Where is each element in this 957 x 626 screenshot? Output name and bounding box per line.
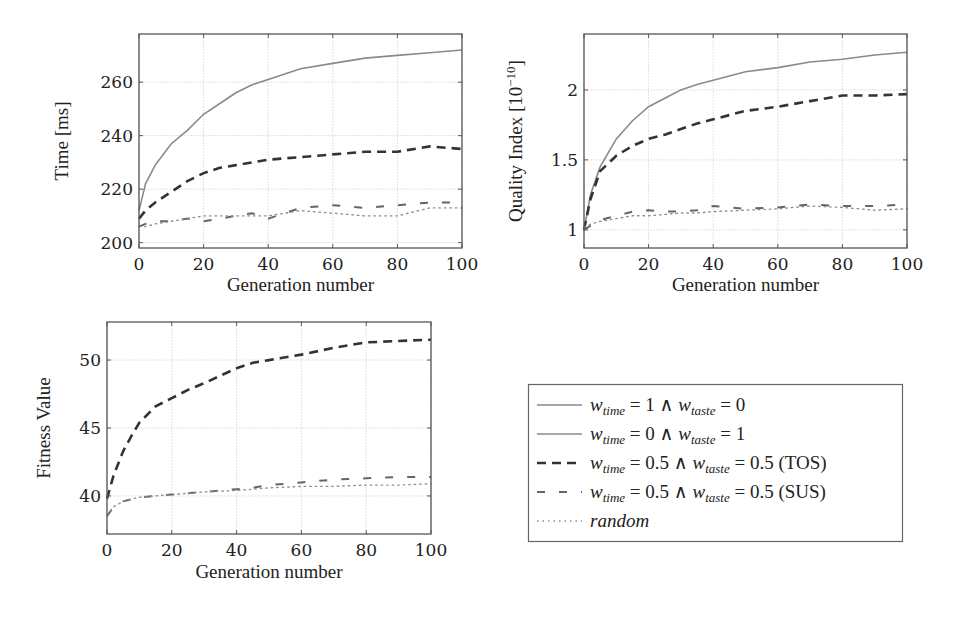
chart-time: 020406080100200220240260Generation numbe…: [51, 34, 478, 295]
series-line: [139, 50, 462, 211]
series-group: [584, 52, 907, 230]
x-tick-label: 100: [891, 254, 923, 274]
y-tick-label: 50: [79, 350, 101, 370]
x-tick-label: 60: [767, 254, 789, 274]
series-line: [107, 484, 431, 515]
x-axis-label: Generation number: [195, 561, 343, 582]
x-tick-label: 40: [702, 254, 724, 274]
y-tick-label: 45: [79, 418, 101, 438]
x-tick-label: 60: [291, 540, 313, 560]
y-tick-label: 1: [567, 220, 578, 240]
y-tick-label: 200: [101, 233, 133, 253]
x-tick-label: 20: [161, 540, 183, 560]
grid: [139, 34, 462, 248]
series-line: [107, 340, 431, 499]
grid: [107, 322, 431, 534]
y-tick-label: 220: [101, 179, 133, 199]
x-tick-label: 40: [226, 540, 248, 560]
x-tick-label: 100: [446, 254, 478, 274]
chart-quality: 02040608010011.52Generation numberQualit…: [503, 34, 924, 295]
legend: wtime = 1 ∧ wtaste = 0wtime = 0 ∧ wtaste…: [529, 385, 903, 542]
series-group: [139, 50, 462, 227]
series-line: [139, 203, 462, 227]
legend-label: random: [590, 510, 649, 531]
x-tick-label: 0: [134, 254, 145, 274]
y-tick-label: 40: [79, 486, 101, 506]
series-line: [107, 477, 431, 516]
series-line: [584, 206, 907, 227]
plot-frame: [139, 34, 462, 248]
x-tick-label: 40: [257, 254, 279, 274]
x-axis-label: Generation number: [227, 274, 375, 295]
y-tick-label: 1.5: [551, 150, 578, 170]
y-tick-label: 2: [567, 80, 578, 100]
x-tick-label: 20: [638, 254, 660, 274]
chart-fitness: 020406080100404550Generation numberFitne…: [33, 322, 447, 582]
series-line: [139, 146, 462, 218]
y-tick-label: 240: [101, 126, 133, 146]
x-tick-label: 0: [579, 254, 590, 274]
y-axis-label: Quality Index [10−10]: [503, 60, 527, 222]
series-line: [139, 208, 462, 227]
y-axis-label: Time [ms]: [51, 101, 72, 180]
x-tick-label: 0: [102, 540, 113, 560]
y-axis-label: Fitness Value: [33, 377, 54, 479]
x-tick-label: 100: [415, 540, 447, 560]
x-tick-label: 20: [193, 254, 215, 274]
y-tick-label: 260: [101, 72, 133, 92]
x-tick-label: 60: [322, 254, 344, 274]
figure-canvas: 020406080100200220240260Generation numbe…: [0, 0, 957, 626]
x-axis-label: Generation number: [672, 274, 820, 295]
series-line: [584, 52, 907, 230]
x-tick-label: 80: [387, 254, 409, 274]
x-tick-label: 80: [355, 540, 377, 560]
x-tick-label: 80: [832, 254, 854, 274]
